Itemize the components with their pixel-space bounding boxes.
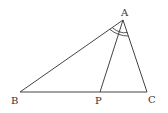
segment-ac [123,20,147,92]
label-b: B [11,95,18,106]
triangle-diagram: A B P C [0,0,168,113]
label-p: P [95,95,102,106]
label-a: A [120,7,129,18]
segment-ab [20,20,123,92]
angle-arc-right [119,32,127,33]
angle-arc-inner [112,28,120,32]
label-c: C [148,94,156,105]
